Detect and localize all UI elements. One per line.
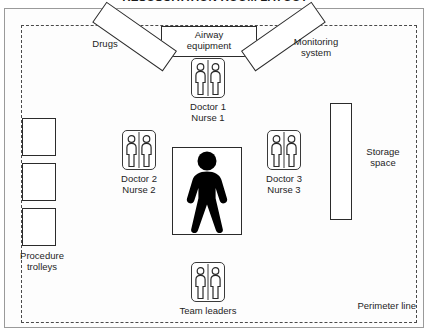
- staff-group-team-leaders: Team leaders: [162, 262, 254, 316]
- airway-equipment-label: Airway equipment: [161, 29, 257, 51]
- procedure-trolley: [22, 208, 56, 246]
- monitoring-system-label: Monitoring system: [278, 36, 354, 58]
- procedure-trolleys-label: Procedure trolleys: [12, 250, 72, 272]
- staff-group-label: Team leaders: [162, 305, 254, 316]
- two-people-icon: [267, 130, 301, 170]
- staff-group-doctor-1-nurse-1: Doctor 1 Nurse 1: [166, 58, 250, 123]
- staff-group-label: Doctor 3 Nurse 3: [246, 173, 322, 195]
- perimeter-line-label: Perimeter line: [340, 300, 416, 311]
- staff-group-label: Doctor 1 Nurse 1: [166, 101, 250, 123]
- patient-silhouette-icon: [173, 219, 241, 236]
- storage-space-label: Storage space: [352, 146, 414, 168]
- staff-group-doctor-2-nurse-2: Doctor 2 Nurse 2: [101, 130, 177, 195]
- procedure-trolley: [22, 163, 56, 201]
- two-people-icon: [122, 130, 156, 170]
- procedure-trolley: [22, 118, 56, 156]
- two-people-icon: [191, 58, 225, 98]
- storage-space-box: [330, 103, 352, 220]
- patient-area-box: [172, 147, 242, 235]
- staff-group-doctor-3-nurse-3: Doctor 3 Nurse 3: [246, 130, 322, 195]
- two-people-icon: [191, 262, 225, 302]
- page-title: RESUSCITATION ROOM LAYOUT: [0, 0, 430, 3]
- drugs-label: Drugs: [76, 38, 134, 49]
- staff-group-label: Doctor 2 Nurse 2: [101, 173, 177, 195]
- resuscitation-room-diagram: RESUSCITATION ROOM LAYOUT Airway equipme…: [0, 0, 430, 335]
